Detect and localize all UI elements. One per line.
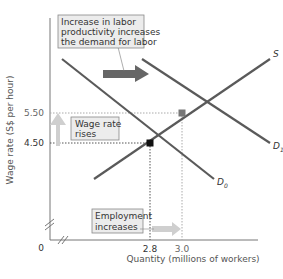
productivity-box: Increase in labor productivity increases…: [58, 15, 161, 48]
demand-shift-arrow: [103, 47, 149, 82]
y-axis-label: Wage rate (S$ per hour): [5, 76, 15, 185]
productivity-line-2: productivity increases: [61, 27, 161, 37]
employment-line-2: increases: [95, 222, 138, 232]
employment-increases-arrow: [152, 222, 181, 236]
employment-increases-box: Employment increases: [92, 209, 154, 233]
labor-market-chart: Wage rate (S$ per hour) Quantity (millio…: [0, 0, 283, 279]
employment-line-1: Employment: [95, 211, 153, 221]
curve-label-s: S: [273, 49, 279, 59]
origin-label: 0: [38, 243, 44, 253]
wage-rises-line-1: Wage rate: [75, 119, 122, 129]
productivity-line-3: the demand for labor: [61, 37, 157, 47]
wage-rises-box: Wage rate rises: [71, 117, 122, 140]
wage-rises-arrow: [50, 113, 66, 146]
wage-rises-line-2: rises: [75, 129, 96, 139]
y-tick-label: 5.50: [24, 108, 44, 118]
x-axis-label: Quantity (millions of workers): [126, 254, 259, 264]
x-tick-label: 3.0: [175, 244, 190, 254]
equilibrium-point-initial: [147, 140, 154, 147]
equilibrium-point-new: [179, 110, 186, 117]
curve-label-d1: D1: [273, 141, 283, 153]
productivity-line-1: Increase in labor: [61, 17, 136, 27]
y-tick-label: 4.50: [24, 138, 44, 148]
curve-label-d0: D0: [217, 177, 228, 189]
x-tick-label: 2.8: [143, 244, 158, 254]
